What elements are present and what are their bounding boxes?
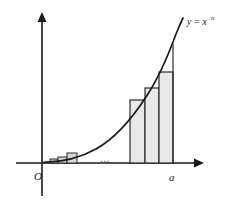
x-axis-arrowhead: [194, 159, 204, 168]
curve-equation-exponent: n: [211, 14, 215, 22]
y-axis-arrowhead: [38, 12, 47, 22]
large-bars-group: [130, 72, 173, 163]
bar-rect: [159, 72, 173, 163]
curve-equation-base: y = x: [186, 17, 207, 27]
curve-equation-label: y = x n: [186, 14, 215, 27]
upper-bound-label: a: [169, 171, 175, 183]
riemann-sum-diagram: ... O a y = x n: [0, 0, 235, 209]
ellipsis-label: ...: [100, 153, 110, 164]
origin-label: O: [34, 170, 42, 182]
bar-rect: [145, 88, 159, 163]
riemann-sum-figure: ... O a y = x n: [0, 0, 235, 209]
y-axis: [38, 12, 47, 196]
